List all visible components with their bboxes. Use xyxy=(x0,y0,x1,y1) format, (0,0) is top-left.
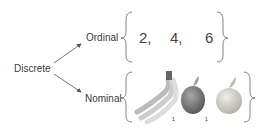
ordinal-right-brace xyxy=(217,12,228,62)
ordinal-value-1: 2, xyxy=(139,29,152,46)
nominal-right-brace xyxy=(244,72,255,122)
ordinal-value-3: 6 xyxy=(205,29,213,46)
orange-icon xyxy=(216,77,242,114)
apple-icon xyxy=(181,76,205,114)
banana-icon xyxy=(137,71,176,122)
root-label-discrete: Discrete xyxy=(14,63,51,74)
banana-mark: 1 xyxy=(172,116,175,122)
ordinal-left-brace xyxy=(121,12,132,62)
ordinal-value-2: 4, xyxy=(170,29,183,46)
branch-label-nominal: Nominal xyxy=(85,93,122,104)
nominal-left-brace xyxy=(121,72,132,122)
arrow-to-nominal xyxy=(54,74,81,92)
arrow-to-ordinal xyxy=(54,44,81,63)
branch-label-ordinal: Ordinal xyxy=(86,32,118,43)
apple-mark: 1 xyxy=(205,116,208,122)
